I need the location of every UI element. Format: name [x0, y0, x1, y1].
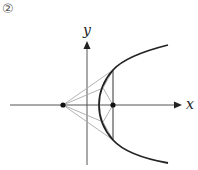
focus-point [110, 102, 115, 107]
y-axis-label: y [83, 22, 91, 38]
x-axis-arrow-icon [174, 102, 182, 109]
left-point [60, 102, 65, 107]
figure-number-label: ② [2, 1, 14, 16]
parabola-curve [99, 45, 168, 163]
x-axis-label: x [186, 96, 194, 112]
parabola-diagram [0, 0, 198, 170]
figure: ② y x [0, 0, 198, 170]
y-axis-arrow-icon [84, 41, 91, 49]
